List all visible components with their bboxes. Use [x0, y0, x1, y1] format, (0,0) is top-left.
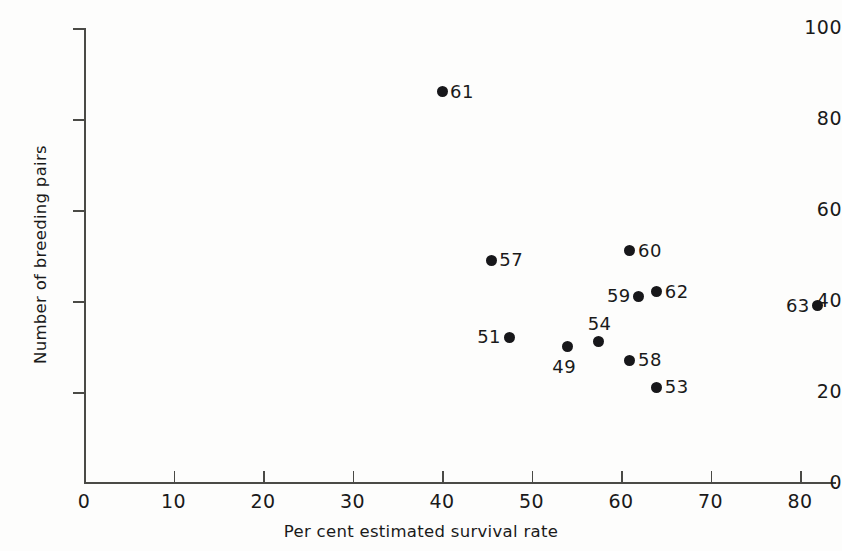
x-tick-mark [711, 471, 713, 483]
data-point-label: 49 [552, 358, 576, 376]
y-tick-label: 100 [796, 18, 842, 37]
data-point [633, 291, 644, 302]
x-tick-mark [532, 471, 534, 483]
data-point-label: 51 [477, 328, 501, 346]
x-tick-label: 50 [510, 492, 554, 511]
y-tick-mark [73, 210, 85, 212]
data-point-label: 53 [665, 378, 689, 396]
x-axis-line [84, 482, 836, 484]
data-point-label: 57 [499, 251, 523, 269]
data-point [562, 341, 573, 352]
data-point-label: 59 [607, 287, 631, 305]
data-point [651, 382, 662, 393]
data-point-label: 58 [638, 351, 662, 369]
y-tick-mark [73, 28, 85, 30]
x-tick-mark [263, 471, 265, 483]
x-axis-title: Per cent estimated survival rate [0, 522, 842, 541]
data-point [624, 245, 635, 256]
scatter-plot-figure: 020406080100 01020304050607080 615760596… [0, 0, 842, 551]
data-point-label: 61 [450, 83, 474, 101]
data-point-label: 54 [588, 315, 612, 333]
data-point [624, 355, 635, 366]
data-point [593, 336, 604, 347]
data-point [486, 255, 497, 266]
x-tick-label: 40 [420, 492, 464, 511]
x-tick-mark [800, 471, 802, 483]
y-tick-label: 20 [796, 382, 842, 401]
data-point [651, 286, 662, 297]
x-tick-mark [621, 471, 623, 483]
y-axis-line [84, 28, 86, 484]
y-tick-mark [73, 301, 85, 303]
data-point [504, 332, 515, 343]
y-tick-mark [73, 119, 85, 121]
x-tick-label: 10 [152, 492, 196, 511]
y-tick-label: 80 [796, 109, 842, 128]
x-tick-mark [174, 471, 176, 483]
y-axis-title: Number of breeding pairs [31, 105, 50, 405]
x-tick-label: 60 [599, 492, 643, 511]
y-tick-label: 60 [796, 200, 842, 219]
data-point-label: 62 [665, 283, 689, 301]
x-tick-label: 0 [62, 492, 106, 511]
x-tick-label: 80 [778, 492, 822, 511]
x-tick-label: 70 [689, 492, 733, 511]
x-tick-mark [353, 471, 355, 483]
x-tick-mark [442, 471, 444, 483]
data-point [437, 86, 448, 97]
x-tick-label: 30 [331, 492, 375, 511]
data-point-label: 60 [638, 242, 662, 260]
y-tick-mark [73, 392, 85, 394]
data-point-label: 63 [786, 297, 810, 315]
x-tick-label: 20 [241, 492, 285, 511]
